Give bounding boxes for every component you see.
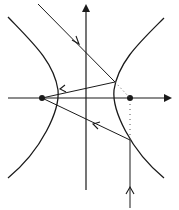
incident-ray-1-arrow	[72, 36, 79, 44]
reflected-ray-1-arrow	[60, 85, 66, 92]
reflected-ray-1	[42, 82, 115, 98]
dotted-guide-1	[115, 82, 130, 98]
hyperbola-reflection-diagram	[0, 0, 179, 210]
